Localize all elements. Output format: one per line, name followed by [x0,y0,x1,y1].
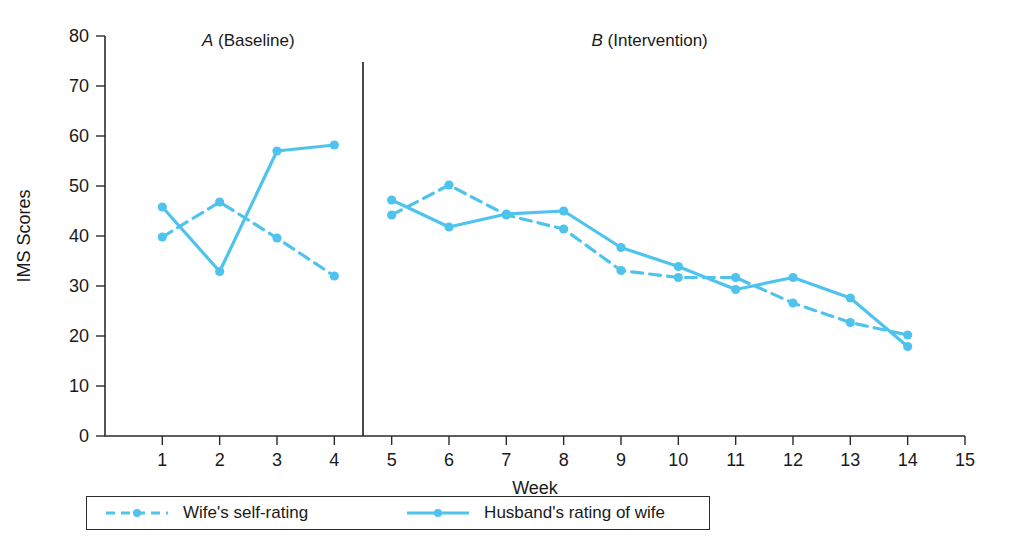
line-chart-plot: 01020304050607080123456789101112131415 A… [0,0,1016,552]
series-line-husband-s-rating-of-wife [162,145,334,272]
y-tick-label: 20 [69,326,89,346]
phase-label-a: A (Baseline) [201,31,295,50]
y-axis-title: IMS Scores [14,189,34,282]
series-line-wife-s-self-rating [392,185,908,335]
x-tick-label: 3 [272,450,282,470]
x-tick-label: 10 [668,450,688,470]
x-tick-label: 5 [387,450,397,470]
data-point-wife-s-self-rating [215,197,224,206]
data-point-wife-s-self-rating [330,271,339,280]
chart-figure: 01020304050607080123456789101112131415 A… [0,0,1016,552]
data-point-wife-s-self-rating [731,273,740,282]
chart-legend: Wife's self-rating Husband's rating of w… [86,496,710,530]
x-tick-label: 14 [898,450,918,470]
phase-label-b: B (Intervention) [592,31,708,50]
data-point-husband-s-rating-of-wife [330,140,339,149]
data-point-husband-s-rating-of-wife [444,222,453,231]
y-tick-label: 50 [69,176,89,196]
y-tick-label: 80 [69,26,89,46]
x-tick-label: 15 [955,450,975,470]
legend-label-husband-rating-of-wife: Husband's rating of wife [484,503,665,523]
data-point-husband-s-rating-of-wife [788,273,797,282]
axis-titles-group: WeekIMS Scores [14,189,559,498]
legend-label-wife-self-rating: Wife's self-rating [183,503,308,523]
series-group [158,140,913,351]
data-point-wife-s-self-rating [444,180,453,189]
x-tick-label: 11 [726,450,745,470]
legend-item-husband-rating-of-wife: Husband's rating of wife [406,497,665,529]
data-point-wife-s-self-rating [158,232,167,241]
y-tick-label: 70 [69,76,89,96]
data-point-wife-s-self-rating [788,298,797,307]
data-point-husband-s-rating-of-wife [559,206,568,215]
data-point-wife-s-self-rating [846,318,855,327]
data-point-husband-s-rating-of-wife [158,202,167,211]
data-point-wife-s-self-rating [903,330,912,339]
y-tick-label: 10 [69,376,89,396]
legend-swatch-solid [406,506,470,520]
x-tick-label: 8 [559,450,569,470]
phase-name: (Baseline) [213,31,294,50]
phase-labels-group: A (Baseline)B (Intervention) [201,31,708,50]
x-tick-label: 13 [840,450,860,470]
x-tick-label: 4 [329,450,339,470]
x-tick-label: 12 [783,450,803,470]
legend-item-wife-self-rating: Wife's self-rating [105,497,308,529]
y-tick-label: 60 [69,126,89,146]
y-tick-label: 30 [69,276,89,296]
data-point-wife-s-self-rating [387,210,396,219]
y-tick-label: 40 [69,226,89,246]
data-point-wife-s-self-rating [559,224,568,233]
data-point-husband-s-rating-of-wife [616,243,625,252]
data-point-wife-s-self-rating [272,233,281,242]
data-point-husband-s-rating-of-wife [731,285,740,294]
y-tick-label: 0 [79,426,89,446]
x-tick-label: 7 [501,450,511,470]
data-point-wife-s-self-rating [616,266,625,275]
legend-swatch-dashed [105,506,169,520]
x-tick-label: 1 [157,450,167,470]
data-point-wife-s-self-rating [674,273,683,282]
x-tick-label: 9 [616,450,626,470]
x-tick-label: 6 [444,450,454,470]
axes-group: 01020304050607080123456789101112131415 [69,26,975,470]
data-point-husband-s-rating-of-wife [387,195,396,204]
data-point-husband-s-rating-of-wife [215,267,224,276]
phase-letter: A [201,31,213,50]
phase-letter: B [592,31,603,50]
axis-lines [105,36,965,436]
x-axis-title: Week [512,478,559,498]
data-point-husband-s-rating-of-wife [502,209,511,218]
data-point-husband-s-rating-of-wife [674,262,683,271]
data-point-husband-s-rating-of-wife [846,293,855,302]
phase-name: (Intervention) [603,31,708,50]
x-tick-label: 2 [215,450,225,470]
data-point-husband-s-rating-of-wife [272,146,281,155]
data-point-husband-s-rating-of-wife [903,342,912,351]
